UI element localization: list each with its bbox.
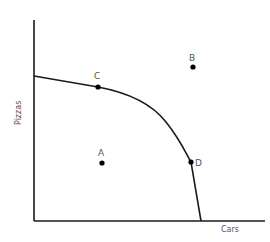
point-d-label: D (195, 158, 202, 168)
point-b-label: B (189, 53, 195, 63)
point-a-label: A (98, 148, 105, 158)
point-a-marker (99, 160, 104, 165)
point-d-marker (188, 159, 193, 164)
ppf-diagram: C B A D Cars Pizzas (0, 0, 270, 242)
x-axis-label: Cars (221, 225, 239, 234)
y-axis-label: Pizzas (14, 101, 23, 125)
ppf-curve (34, 76, 201, 221)
point-c-label: C (94, 71, 100, 81)
point-c-marker (95, 84, 100, 89)
point-b-marker (190, 64, 195, 69)
